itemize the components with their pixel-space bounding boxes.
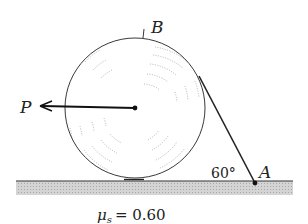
label-angle: 60°	[211, 165, 236, 181]
tick-b	[143, 29, 144, 38]
label-p: P	[19, 97, 32, 117]
diagram-canvas: B P 60° A μs= 0.60	[0, 0, 308, 224]
ground	[16, 181, 293, 195]
mu-value: = 0.60	[115, 206, 166, 224]
anchor-a	[253, 181, 258, 186]
mu-subscript: s	[107, 214, 112, 224]
label-a: A	[257, 162, 271, 182]
label-b: B	[150, 17, 164, 37]
mu-symbol: μ	[97, 206, 107, 224]
friction-coefficient: μs= 0.60	[97, 206, 166, 224]
force-p-arrow	[40, 101, 137, 111]
